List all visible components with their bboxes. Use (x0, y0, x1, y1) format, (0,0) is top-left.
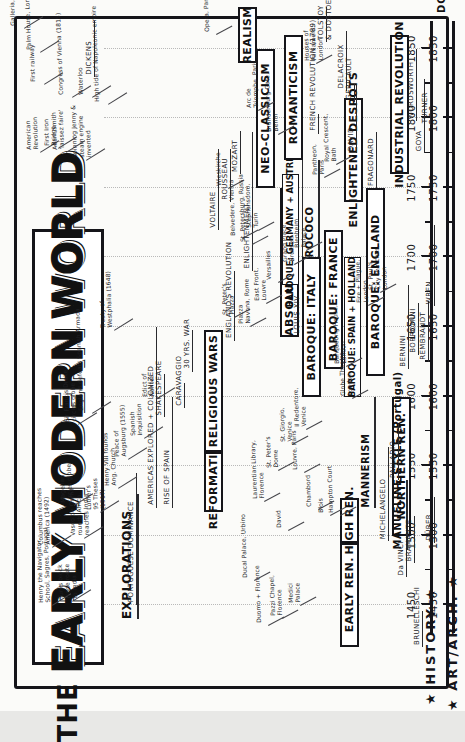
axis-tick-history (425, 221, 430, 223)
art-artist-rule-17 (326, 7, 327, 42)
axis-gridline (104, 535, 422, 536)
art-work-24: Stephansdom, Turin (244, 183, 259, 228)
art-era-0: EARLY REN. (340, 543, 359, 647)
art-artist-label-15: TURNER (421, 92, 429, 123)
history-span-label-2: RISE OF SPAIN (163, 450, 171, 505)
history-person-rule-1 (184, 383, 185, 408)
history-event-22: Palm House, London (24, 0, 33, 50)
axis-year-label-history: 1700 (406, 244, 417, 271)
art-artist-rule-11 (356, 84, 357, 154)
history-span-label-3: 30 YRS. WAR (183, 319, 191, 369)
art-artist-label-9: WREN (425, 281, 433, 304)
art-artist-label-11: DAVID (347, 127, 355, 151)
axis-year-label-art: 1750 (428, 174, 439, 201)
history-event-4: Magellan circles globe (59, 464, 74, 503)
art-work-2: Medici Palace (287, 583, 301, 603)
art-artist-label-14: GOYA (415, 130, 423, 151)
art-work-25: Wieskirche (215, 152, 223, 186)
axis-tick-art (443, 255, 452, 257)
art-work-16: Piazza Navona, Rome (236, 278, 251, 323)
axis-tick-art (443, 47, 452, 49)
axis-tick-art (443, 534, 452, 536)
history-person-label-0: SHAKESPEARE (155, 360, 163, 415)
axis-tick-art (443, 186, 452, 188)
art-era-rule-2 (374, 397, 376, 508)
axis-tick-history (425, 499, 430, 501)
art-era-1: HIGH REN. (340, 498, 359, 543)
art-work-28: Royal Crescent, Bath (322, 114, 337, 163)
art-artist-label-8: REMBRANDT (419, 312, 427, 360)
art-artist-label-0: BRUNELLESCHI (413, 587, 421, 645)
axis-tick-art (447, 82, 452, 84)
art-arch-axis-line (452, 21, 455, 633)
history-person-label-1: CARAVAGGIO (175, 356, 183, 406)
history-era-1: REFORMATION (204, 452, 223, 512)
history-person-label-4: MOZART (231, 140, 239, 172)
art-artist-rule-13 (354, 84, 355, 102)
axis-tick-art (443, 395, 452, 397)
title-world: WORLD (45, 152, 91, 320)
history-event-12: Treaty of Westphalia (1648) (98, 271, 114, 328)
art-work-10: Blois (317, 498, 324, 513)
history-event-10: Edict of Nantes (141, 373, 156, 397)
art-work-18: Versailles (265, 251, 273, 281)
art-artist-label-1: Da VINCI (397, 541, 405, 575)
history-span-rule-0 (136, 473, 137, 605)
art-artist-label-13: GERICAULT (345, 57, 353, 99)
art-work-31: Houses of Parliament, London (303, 25, 325, 61)
axis-year-label-art: 1650 (428, 313, 439, 340)
art-work-22: Blenheim Palace (293, 219, 308, 249)
art-era-12: REALISM (238, 7, 257, 63)
axis-tick-art (447, 569, 452, 571)
art-artist-rule-0 (422, 611, 423, 647)
axis-tick-art (447, 499, 452, 501)
art-artist-rule-16 (416, 49, 417, 121)
axis-tick-history (425, 569, 430, 571)
art-work-30: Arc de Triomphe, Paris (244, 60, 259, 108)
axis-gridline (104, 604, 422, 605)
art-artist-rule-2 (414, 516, 415, 563)
band-label-art-arch: ★ ART/ARCH. ★ (445, 574, 460, 711)
art-era-3: BAROQUE: ITALY (302, 257, 321, 396)
art-work-9: Chambord (305, 475, 313, 507)
history-event-20: Spinning Jenny & steam engine invented (70, 105, 93, 159)
art-artist-label-10: FRAGONARD (367, 138, 375, 186)
art-work-21: St. Paul's, City churches, London (366, 245, 388, 290)
art-work-3: David (275, 510, 283, 528)
history-event-9: Spanish Inquisition (129, 404, 144, 437)
history-person-label-3: VOLTAIRE (209, 191, 217, 227)
history-era-rule-0 (137, 494, 139, 619)
history-event-8: Peace of Augsburg (1555) (112, 405, 128, 457)
history-event-21: Galleria, Milan (8, 0, 16, 26)
history-era-2: RELIGIOUS WARS (204, 330, 223, 452)
art-artist-rule-10 (376, 132, 377, 188)
axis-tick-art (443, 603, 452, 605)
art-work-11: Louvre, Paris (291, 430, 299, 470)
art-artist-rule-8 (428, 301, 429, 362)
history-span-rule-1 (156, 327, 157, 508)
art-artist-label-6: BERNINI (399, 335, 407, 367)
axis-tick-history (425, 152, 430, 154)
history-span-rule-9 (318, 114, 319, 134)
art-artist-label-5: DÜRER (425, 514, 433, 541)
art-work-8: Il Redentore, Venice (293, 387, 308, 427)
art-artist-label-12: DELACROIX (337, 44, 345, 88)
art-artist-rule-9 (434, 225, 435, 306)
axis-tick-art (447, 221, 452, 223)
art-artist-rule-4 (398, 424, 399, 480)
art-artist-rule-5 (434, 497, 435, 543)
axis-tick-art (447, 430, 452, 432)
history-span-rule-2 (172, 397, 173, 508)
axis-year-label-history: 1750 (406, 174, 417, 201)
history-person-rule-4 (240, 131, 241, 174)
art-artist-label-4: PALLADIO (389, 441, 397, 478)
history-person-rule-0 (164, 374, 165, 417)
axis-tick-art (447, 360, 452, 362)
art-work-14: Banqueting House, London (332, 305, 348, 364)
art-artist-label-16: WORDSWORTH (407, 62, 415, 119)
axis-tick-art (443, 325, 452, 327)
axis-tick-art (443, 116, 452, 118)
